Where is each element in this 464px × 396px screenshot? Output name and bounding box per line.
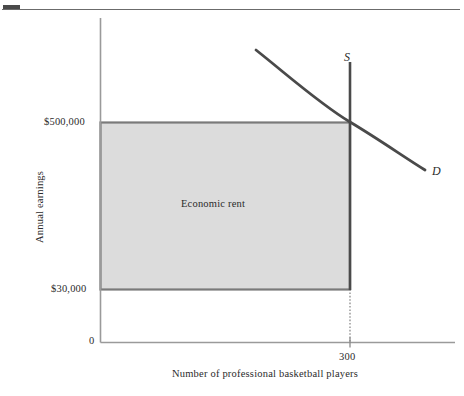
x-axis-title: Number of professional basketball player… — [172, 369, 358, 380]
figure-container: $500,000 $30,000 0 Annual earnings 300 N… — [0, 0, 464, 396]
supply-curve-label: S — [344, 51, 350, 63]
economic-rent-label: Economic rent — [181, 199, 245, 210]
y-tick-label-30000: $30,000 — [51, 284, 87, 295]
demand-curve-label: D — [432, 165, 441, 177]
y-axis-title: Annual earnings — [35, 171, 46, 243]
origin-label: 0 — [89, 336, 94, 347]
x-tick-label-300: 300 — [339, 352, 355, 363]
y-tick-label-500000: $500,000 — [44, 117, 85, 128]
